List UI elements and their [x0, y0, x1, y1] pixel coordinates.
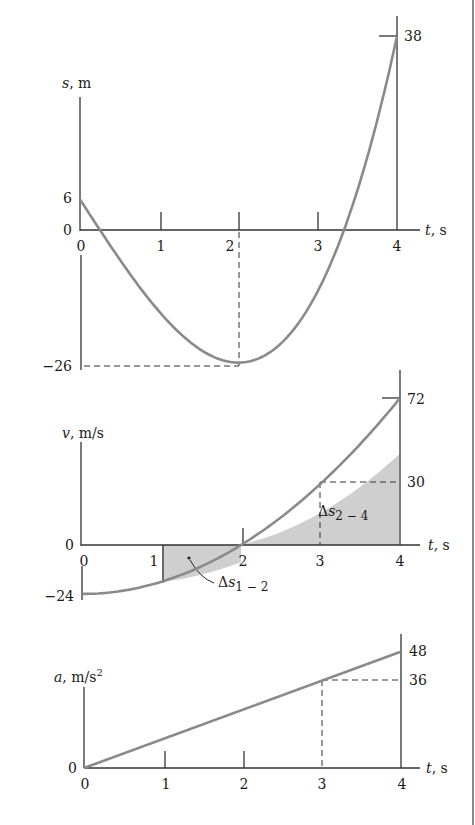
v-x-tick-label-2: 2	[239, 553, 248, 569]
region-label-delta-s-1-2: Δs1 − 2	[218, 574, 268, 594]
s-x-axis-label: t, s	[425, 222, 447, 238]
v-x-tick-label-4: 4	[396, 553, 405, 569]
a-tick-label-36: 36	[409, 672, 427, 688]
v-x-tick-label-3: 3	[316, 553, 325, 569]
a-x-tick-label-4: 4	[398, 776, 407, 792]
a-line	[84, 652, 400, 768]
v-tick-label-0: 0	[65, 537, 74, 553]
s-tick-label-min: −26	[42, 358, 72, 374]
a-x-tick-label-0: 0	[81, 776, 90, 792]
s-tick-label-6: 6	[63, 190, 72, 206]
s-x-tick-label-4: 4	[393, 238, 402, 254]
kinematics-figure: s, m 60−263801234t, s v, m/s 0−247	[0, 0, 475, 825]
s-tick-label-0: 0	[63, 222, 72, 238]
a-x-tick-label-2: 2	[240, 776, 249, 792]
s-x-tick-label-1: 1	[157, 238, 166, 254]
acceleration-plot: a, m/s2 0483601234t, s	[54, 634, 448, 792]
s-axis-label: s, m	[62, 75, 91, 91]
displacement-plot: s, m 60−263801234t, s	[42, 16, 446, 374]
a-axis-label: a, m/s2	[54, 667, 103, 685]
v-x-axis-label: t, s	[428, 537, 450, 553]
v-x-tick-label-0: 0	[80, 553, 89, 569]
a-x-axis-label: t, s	[426, 760, 448, 776]
a-tick-label-0: 0	[68, 760, 77, 776]
v-x-tick-label-1: 1	[150, 553, 159, 569]
s-x-tick-label-3: 3	[314, 238, 323, 254]
v-axis-label: v, m/s	[62, 425, 104, 441]
v-tick-label-min: −24	[44, 588, 74, 604]
region-delta-s-2-4	[241, 455, 399, 546]
s-x-tick-label-2: 2	[226, 238, 235, 254]
region-1-2-dot	[187, 556, 190, 559]
a-tick-label-48: 48	[409, 643, 427, 659]
s-tick-label-38: 38	[404, 28, 422, 44]
v-tick-label-72: 72	[407, 391, 425, 407]
s-x-tick-label-0: 0	[77, 238, 86, 254]
a-x-tick-label-1: 1	[162, 776, 171, 792]
a-x-tick-label-3: 3	[318, 776, 327, 792]
velocity-plot: v, m/s 0−24723001234t, sΔs2 − 4Δs1 − 2	[44, 370, 449, 604]
v-tick-label-30: 30	[407, 474, 425, 490]
